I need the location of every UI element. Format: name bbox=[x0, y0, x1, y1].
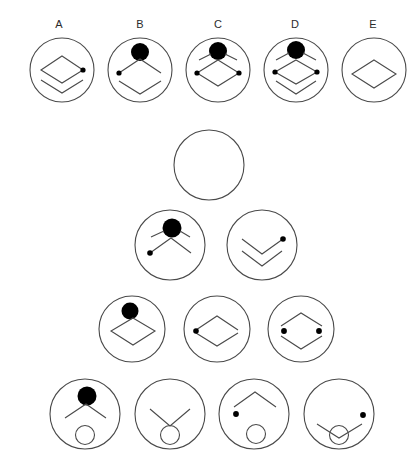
diamond-outline bbox=[197, 60, 239, 86]
puzzle-canvas: A B C D E bbox=[0, 0, 418, 468]
matrix-cell-4-3-tile bbox=[219, 379, 289, 449]
split-diamond-top bbox=[196, 316, 238, 330]
shallow-chevron bbox=[317, 424, 362, 438]
tile-outline-circle bbox=[268, 296, 334, 362]
dot-right bbox=[314, 69, 319, 74]
filled-circle-top bbox=[122, 303, 139, 320]
chevron-down bbox=[242, 239, 283, 254]
dot-right bbox=[236, 70, 241, 75]
dot-left bbox=[281, 328, 287, 334]
diamond-outline bbox=[352, 60, 396, 88]
split-diamond-bottom bbox=[281, 336, 322, 349]
diamond-outline bbox=[111, 318, 155, 345]
angled-line-right bbox=[225, 54, 237, 60]
dot-left-low bbox=[233, 411, 239, 417]
filled-circle-top bbox=[209, 42, 227, 60]
filled-circle-top bbox=[287, 41, 305, 59]
tile-outline-circle bbox=[174, 130, 244, 200]
dot-right bbox=[80, 67, 85, 72]
angled-line-left bbox=[276, 53, 289, 60]
open-circle-bottom bbox=[247, 425, 266, 444]
tile-outline-circle bbox=[227, 210, 297, 280]
open-circle-bottom bbox=[161, 426, 180, 445]
matrix-cell-2-2-tile bbox=[227, 210, 297, 280]
dot-right bbox=[316, 328, 322, 334]
open-circle-bottom bbox=[76, 426, 95, 445]
chevron-up bbox=[234, 392, 276, 407]
matrix-cell-4-4-tile bbox=[304, 379, 374, 449]
matrix-cell-4-2-tile bbox=[135, 379, 205, 449]
tile-outline-circle bbox=[135, 379, 205, 449]
dot-left bbox=[193, 328, 199, 334]
dot-left bbox=[116, 70, 121, 75]
dot-left bbox=[272, 69, 277, 74]
filled-circle-top bbox=[131, 43, 149, 61]
angled-line-right bbox=[180, 231, 190, 237]
puzzle-graphics bbox=[0, 0, 418, 468]
diamond-outline bbox=[41, 56, 83, 83]
chevron-down-below bbox=[41, 80, 83, 93]
option-d-tile[interactable] bbox=[264, 38, 328, 102]
option-e-tile[interactable] bbox=[342, 38, 406, 102]
tile-outline-circle bbox=[219, 379, 289, 449]
chevron-up bbox=[119, 59, 161, 73]
filled-circle-top bbox=[163, 219, 182, 238]
angled-line-right bbox=[303, 53, 316, 60]
matrix-cell-3-2-tile bbox=[184, 296, 250, 362]
tile-outline-circle bbox=[342, 38, 406, 102]
chevron-down-below bbox=[242, 251, 282, 266]
chevron-down-below bbox=[119, 81, 161, 94]
split-diamond-top bbox=[281, 313, 322, 326]
option-c-tile[interactable] bbox=[186, 38, 250, 102]
angled-line-left bbox=[199, 54, 211, 60]
matrix-cell-4-1-tile bbox=[50, 379, 120, 449]
tile-outline-circle bbox=[184, 296, 250, 362]
matrix-cell-2-1-tile bbox=[135, 210, 205, 280]
option-a-tile[interactable] bbox=[30, 38, 94, 102]
dot-right-upper bbox=[280, 236, 286, 242]
chevron-up bbox=[150, 238, 191, 253]
angled-line-left bbox=[151, 231, 164, 237]
filled-circle-top bbox=[78, 387, 97, 406]
chevron-down bbox=[150, 409, 190, 426]
open-circle-center bbox=[330, 426, 349, 445]
diamond-outline bbox=[275, 60, 317, 84]
option-b-tile[interactable] bbox=[108, 38, 172, 102]
matrix-cell-3-3-tile bbox=[268, 296, 334, 362]
dot-left-low bbox=[147, 250, 153, 256]
dot-right-upper bbox=[360, 412, 366, 418]
matrix-cell-3-1-tile bbox=[99, 296, 165, 362]
dot-left bbox=[194, 70, 199, 75]
chevron-down-below bbox=[276, 81, 316, 94]
empty-cell-tile[interactable] bbox=[174, 130, 244, 200]
split-diamond-bottom bbox=[196, 333, 238, 346]
chevron-up bbox=[65, 404, 106, 418]
